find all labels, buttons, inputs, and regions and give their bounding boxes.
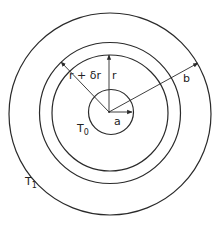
center-point: [108, 111, 110, 113]
label-b: b: [183, 72, 190, 85]
label-a: a: [114, 115, 121, 128]
shell-r-plus-dr-circle: [40, 43, 181, 184]
label-T0: T0: [76, 122, 89, 137]
concentric-shell-diagram: r + δr r b a T0 T1: [0, 0, 219, 226]
b-arrow: [109, 63, 198, 112]
label-r: r: [112, 69, 117, 82]
label-T1: T1: [24, 175, 37, 190]
label-r-plus-dr: r + δr: [69, 69, 101, 82]
